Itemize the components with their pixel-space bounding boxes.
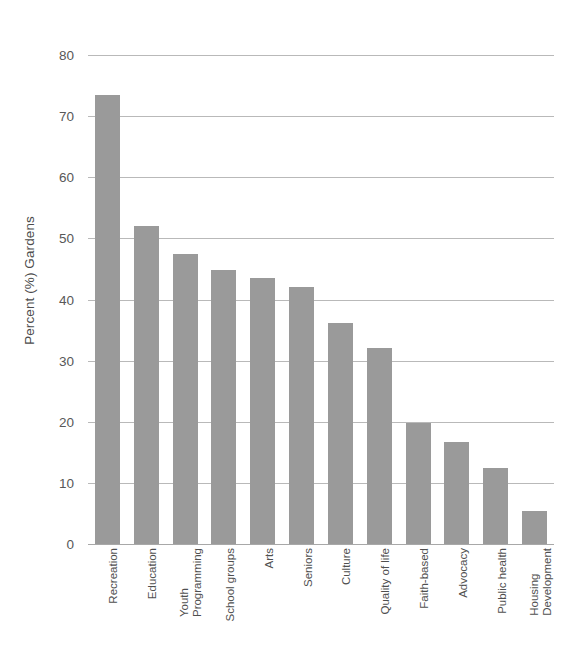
- bar: [211, 270, 236, 544]
- plot-area: [88, 55, 554, 544]
- x-tick-label-text: HousingDevelopment: [528, 548, 554, 616]
- x-tick-label: Faith-based: [399, 548, 438, 667]
- x-tick-label-text: Public health: [496, 548, 509, 614]
- y-tick-label: 60: [59, 170, 74, 185]
- x-tick-label: Education: [127, 548, 166, 667]
- y-tick-label: 20: [59, 414, 74, 429]
- x-tick-label-text: YouthProgramming: [178, 548, 204, 617]
- bar: [367, 348, 392, 544]
- y-tick-label: 40: [59, 292, 74, 307]
- x-tick-label-text: School groups: [224, 548, 237, 622]
- x-tick-label: Arts: [243, 548, 282, 667]
- bar: [250, 278, 275, 544]
- bar: [95, 95, 120, 544]
- bars: [88, 55, 554, 544]
- x-tick-label-text: Seniors: [302, 548, 315, 587]
- bar: [173, 254, 198, 544]
- gridline-0: [88, 544, 554, 545]
- x-tick-label-text: Recreation: [107, 548, 120, 604]
- bar: [522, 511, 547, 544]
- bar: [483, 468, 508, 544]
- bar: [328, 323, 353, 544]
- bar-chart: Percent (%) Gardens 01020304050607080 Re…: [0, 0, 574, 667]
- y-tick-label: 10: [59, 475, 74, 490]
- x-tick-label-text: Culture: [340, 548, 353, 585]
- x-tick-label: Recreation: [88, 548, 127, 667]
- y-tick-label: 70: [59, 109, 74, 124]
- y-tick-label: 0: [66, 537, 74, 552]
- x-tick-label: YouthProgramming: [166, 548, 205, 667]
- x-tick-label-text: Advocacy: [457, 548, 470, 598]
- y-axis-tick-labels: 01020304050607080: [0, 55, 84, 544]
- bar: [134, 226, 159, 544]
- x-axis-tick-labels: RecreationEducationYouthProgrammingSchoo…: [88, 548, 554, 667]
- y-tick-label: 80: [59, 48, 74, 63]
- y-tick-label: 50: [59, 231, 74, 246]
- x-tick-label: Seniors: [282, 548, 321, 667]
- x-tick-label: Culture: [321, 548, 360, 667]
- x-tick-label-text: Quality of life: [379, 548, 392, 614]
- bar: [289, 287, 314, 544]
- x-tick-label: Public health: [476, 548, 515, 667]
- x-tick-label-text: Education: [146, 548, 159, 599]
- x-tick-label: Quality of life: [360, 548, 399, 667]
- y-tick-label: 30: [59, 353, 74, 368]
- bar: [406, 423, 431, 544]
- x-tick-label: School groups: [205, 548, 244, 667]
- x-tick-label-text: Faith-based: [418, 548, 431, 609]
- x-tick-label: Advocacy: [438, 548, 477, 667]
- bar: [444, 442, 469, 544]
- x-tick-label: HousingDevelopment: [515, 548, 554, 667]
- x-tick-label-text: Arts: [263, 548, 276, 568]
